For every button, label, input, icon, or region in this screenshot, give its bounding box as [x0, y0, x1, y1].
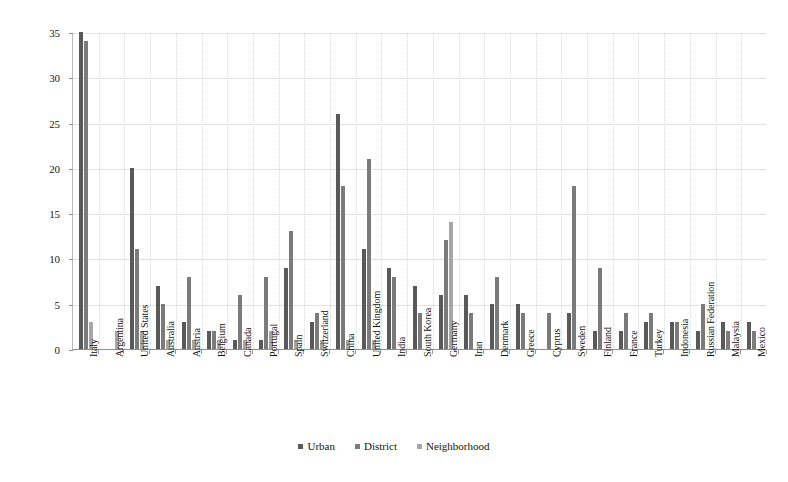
bar-group	[510, 33, 536, 349]
bar-urban	[413, 286, 417, 349]
bar-urban	[259, 340, 263, 349]
x-axis-label-russian-federation: Russian Federation	[706, 282, 716, 357]
bar-urban	[233, 340, 237, 349]
bar-group	[433, 33, 459, 349]
legend-swatch-icon	[298, 444, 303, 449]
bar-group	[227, 33, 253, 349]
bar-urban	[490, 304, 494, 349]
legend-label: District	[364, 440, 397, 452]
bar-urban	[721, 322, 725, 349]
x-axis-label-belgium: Belgium	[217, 323, 227, 357]
bar-urban	[593, 331, 597, 349]
legend-item[interactable]: District	[355, 440, 397, 452]
y-axis-tick-label: 30	[0, 73, 60, 84]
bar-group	[484, 33, 510, 349]
y-axis-tick-label: 25	[0, 119, 60, 130]
bar-group	[741, 33, 767, 349]
legend-label: Urban	[307, 440, 335, 452]
plot-area	[72, 33, 766, 350]
bar-group	[381, 33, 407, 349]
bar-group	[304, 33, 330, 349]
y-axis-tick-label: 35	[0, 28, 60, 39]
bar-group	[99, 33, 125, 349]
bar-urban	[310, 322, 314, 349]
bar-urban	[207, 331, 211, 349]
bar-urban	[670, 322, 674, 349]
bar-group	[330, 33, 356, 349]
legend-label: Neighborhood	[426, 440, 490, 452]
y-axis-tick-label: 0	[0, 345, 60, 356]
x-axis-label-finland: Finland	[603, 327, 613, 357]
x-axis-label-iran: Iran	[474, 341, 484, 357]
x-axis-label-australia: Australia	[166, 321, 176, 357]
x-axis-label-denmark: Denmark	[500, 320, 510, 357]
x-axis-label-italy: Italy	[89, 339, 99, 357]
bar-urban	[387, 268, 391, 350]
y-axis-tick-label: 5	[0, 300, 60, 311]
legend-swatch-icon	[355, 444, 360, 449]
bar-urban	[747, 322, 751, 349]
bar-district	[289, 231, 293, 349]
y-axis-tick-label: 15	[0, 209, 60, 220]
x-axis-label-united-kingdom: United Kingdom	[372, 291, 382, 357]
bar-urban	[439, 295, 443, 349]
bar-group	[638, 33, 664, 349]
bar-urban	[696, 331, 700, 349]
x-axis-label-germany: Germany	[449, 320, 459, 357]
bar-urban	[79, 32, 83, 349]
bar-group	[279, 33, 305, 349]
bar-group	[716, 33, 742, 349]
bar-group	[561, 33, 587, 349]
bar-group	[253, 33, 279, 349]
bar-district	[84, 41, 88, 349]
bar-urban	[619, 331, 623, 349]
bar-district	[547, 313, 551, 349]
x-axis-label-argentina: Argentina	[115, 318, 125, 357]
bar-district	[341, 186, 345, 349]
bar-group	[150, 33, 176, 349]
x-axis-label-mexico: Mexico	[757, 327, 767, 357]
bar-urban	[644, 322, 648, 349]
x-axis-label-canada: Canada	[243, 328, 253, 357]
bar-district	[572, 186, 576, 349]
x-axis-label-portugal: Portugal	[269, 324, 279, 357]
x-axis-label-austria: Austria	[192, 328, 202, 357]
x-axis-label-india: India	[397, 337, 407, 357]
bar-urban	[362, 249, 366, 349]
legend-item[interactable]: Neighborhood	[417, 440, 490, 452]
bar-urban	[464, 295, 468, 349]
bar-group	[459, 33, 485, 349]
bar-urban	[567, 313, 571, 349]
x-axis-label-switzerland: Switzerland	[320, 310, 330, 357]
legend-swatch-icon	[417, 444, 422, 449]
bar-group	[407, 33, 433, 349]
x-axis-label-indonesia: Indonesia	[680, 319, 690, 357]
chart-legend: UrbanDistrictNeighborhood	[0, 440, 788, 452]
x-axis-label-france: France	[629, 330, 639, 357]
x-axis-label-turkey: Turkey	[654, 329, 664, 357]
x-axis-label-sweden: Sweden	[577, 326, 587, 357]
x-axis-label-south-korea: South Korea	[423, 308, 433, 357]
bar-group	[536, 33, 562, 349]
bar-group	[73, 33, 99, 349]
y-axis-tick-label: 20	[0, 164, 60, 175]
y-axis-tick-mark	[69, 350, 73, 351]
x-axis-label-spain: Spain	[294, 335, 304, 357]
bar-group	[613, 33, 639, 349]
bar-group	[202, 33, 228, 349]
bar-group	[664, 33, 690, 349]
bar-district	[367, 159, 371, 349]
x-axis-label-china: China	[346, 334, 356, 357]
bar-group	[587, 33, 613, 349]
bar-chart: 05101520253035 ItalyArgentinaUnited Stat…	[0, 0, 788, 482]
bar-urban	[516, 304, 520, 349]
bar-urban	[284, 268, 288, 350]
bar-group	[176, 33, 202, 349]
bar-urban	[130, 168, 134, 349]
x-axis-label-united-states: United States	[140, 305, 150, 357]
bar-urban	[156, 286, 160, 349]
bar-group	[124, 33, 150, 349]
x-axis-label-greece: Greece	[526, 329, 536, 357]
legend-item[interactable]: Urban	[298, 440, 335, 452]
bar-urban	[336, 114, 340, 349]
